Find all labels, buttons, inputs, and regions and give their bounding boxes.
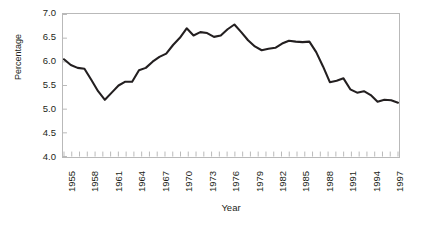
y-axis-tick-labels: 7.06.56.05.55.04.54.0 (24, 10, 56, 158)
y-tick-label: 7.0 (24, 8, 56, 18)
y-axis-title: Percentage (13, 17, 23, 97)
x-tick-label: 1991 (348, 171, 358, 192)
x-tick-label: 1985 (301, 171, 311, 192)
x-tick-label: 1979 (255, 171, 265, 192)
data-line-svg (63, 14, 399, 157)
y-tick-label: 4.5 (24, 128, 56, 138)
y-tick-label: 5.0 (24, 104, 56, 114)
plot-area (62, 13, 400, 158)
data-series-line (64, 24, 398, 102)
x-tick-label: 1970 (184, 171, 194, 192)
x-tick-label: 1961 (114, 171, 124, 192)
x-tick-label: 1994 (372, 171, 382, 192)
y-tick-label: 5.5 (24, 80, 56, 90)
x-tick-label: 1964 (137, 171, 147, 192)
x-axis-tick-labels: 1955195819611964196719701973197619791982… (62, 160, 402, 200)
line-chart-figure: Percentage 7.06.56.05.55.04.54.0 1955195… (0, 0, 423, 225)
x-tick-label: 1997 (395, 171, 405, 192)
x-tick-label: 1988 (325, 171, 335, 192)
y-tick-label: 6.0 (24, 56, 56, 66)
x-tick-label: 1976 (231, 171, 241, 192)
x-tick-label: 1982 (278, 171, 288, 192)
y-tick-label: 6.5 (24, 32, 56, 42)
x-axis-title: Year (62, 203, 400, 213)
x-tick-label: 1958 (90, 171, 100, 192)
y-tick-label: 4.0 (24, 152, 56, 162)
x-tick-label: 1967 (161, 171, 171, 192)
x-tick-label: 1973 (208, 171, 218, 192)
x-tick-label: 1955 (67, 171, 77, 192)
